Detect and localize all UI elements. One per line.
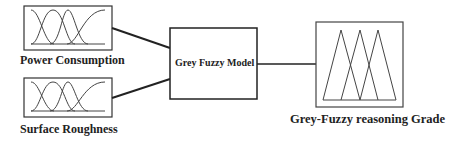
connector-line xyxy=(112,79,170,98)
connector-line xyxy=(112,28,170,48)
input-box-power-consumption xyxy=(24,6,112,50)
model-label: Grey Fuzzy Model xyxy=(175,57,253,68)
output-box xyxy=(316,22,403,107)
input-label-surface-roughness: Surface Roughness xyxy=(20,122,118,137)
output-label: Grey-Fuzzy reasoning Grade xyxy=(290,112,445,127)
input-label-power-consumption: Power Consumption xyxy=(20,53,125,68)
input-box-surface-roughness xyxy=(24,78,112,117)
